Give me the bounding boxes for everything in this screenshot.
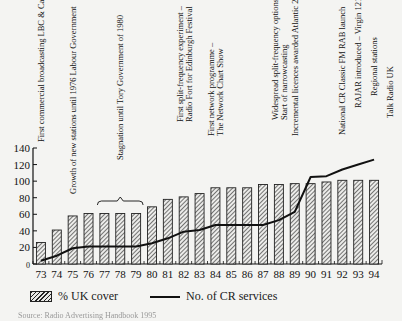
- annotation-label: The Network Chart Show: [215, 48, 225, 136]
- x-tick-label: 85: [226, 268, 238, 280]
- y-tick-label: 80: [19, 192, 31, 204]
- bar-series-uk-cover: [36, 180, 378, 264]
- chart-canvas: 0204060801001201407374757677787980818283…: [0, 0, 402, 290]
- bar: [84, 213, 93, 264]
- y-tick-label: 60: [19, 208, 31, 220]
- bar: [132, 213, 141, 264]
- x-tick-label: 92: [337, 268, 348, 280]
- bar: [274, 184, 283, 264]
- x-tick-label: 79: [131, 268, 143, 280]
- bar: [370, 180, 379, 264]
- bar: [52, 230, 61, 264]
- bar: [354, 180, 363, 264]
- x-tick-label: 86: [242, 268, 254, 280]
- legend-label-uk-cover: % UK cover: [58, 289, 118, 304]
- legend-item-cr-services: No. of CR services: [150, 289, 277, 304]
- x-tick-label: 81: [162, 268, 173, 280]
- x-tick-label: 90: [305, 268, 317, 280]
- x-tick-label: 80: [146, 268, 158, 280]
- annotation-label: First commercial broadcasting LBC & Capi…: [36, 0, 46, 142]
- x-tick-label: 75: [67, 268, 79, 280]
- annotation-label: Stagnation until Tory Government of 1980: [115, 15, 125, 160]
- stagnation-bracket: [97, 197, 143, 205]
- annotation-label: Incremental licences awarded Atlantic 25…: [290, 0, 300, 136]
- annotation-label: RAJAR introduced – Virgin 1215: [353, 0, 363, 108]
- annotation-label: Radio Fort for Edinburgh Festival: [184, 6, 194, 122]
- bar: [68, 216, 77, 264]
- source-note: Source: Radio Advertising Handbook 1995: [18, 311, 156, 320]
- y-tick-label: 20: [19, 241, 31, 253]
- hatched-bar-swatch-icon: [30, 291, 52, 302]
- x-tick-label: 93: [353, 268, 365, 280]
- legend-label-cr-services: No. of CR services: [186, 289, 277, 304]
- x-tick-label: 77: [99, 268, 111, 280]
- annotation-label: Start of narrowcasting: [279, 44, 289, 120]
- legend: % UK cover No. of CR services: [0, 289, 402, 309]
- y-tick-label: 40: [19, 225, 31, 237]
- bar: [290, 184, 299, 264]
- x-tick-label: 89: [289, 268, 301, 280]
- bar: [338, 180, 347, 264]
- x-tick-label: 94: [369, 268, 381, 280]
- x-tick-label: 73: [35, 268, 47, 280]
- bar: [163, 199, 172, 264]
- annotations: First commercial broadcasting LBC & Capi…: [36, 0, 395, 205]
- bar: [306, 184, 315, 264]
- bar: [116, 213, 125, 264]
- annotation-label: Regional stations: [369, 37, 379, 96]
- legend-item-uk-cover: % UK cover: [30, 289, 118, 304]
- x-tick-label: 83: [194, 268, 206, 280]
- bar: [36, 242, 45, 264]
- annotation-label: Talk Radio UK: [385, 65, 395, 118]
- y-tick-label: 120: [14, 159, 31, 171]
- x-tick-label: 78: [115, 268, 127, 280]
- y-tick-label: 100: [14, 175, 31, 187]
- line-swatch-icon: [150, 296, 180, 298]
- x-tick-label: 84: [210, 268, 222, 280]
- annotation-label: Growth of new stations until 1976 Labour…: [68, 6, 78, 194]
- annotation-label: National CR Classic FM RAB launch: [337, 6, 347, 135]
- bar: [147, 207, 156, 264]
- x-tick-label: 82: [178, 268, 189, 280]
- x-tick-label: 88: [273, 268, 285, 280]
- x-tick-label: 91: [321, 268, 332, 280]
- y-tick-label: 0: [26, 261, 30, 270]
- bar: [100, 213, 109, 264]
- bar: [322, 182, 331, 264]
- x-tick-label: 74: [51, 268, 63, 280]
- x-tick-label: 87: [258, 268, 270, 280]
- x-tick-label: 76: [83, 268, 95, 280]
- y-tick-label: 140: [14, 142, 31, 154]
